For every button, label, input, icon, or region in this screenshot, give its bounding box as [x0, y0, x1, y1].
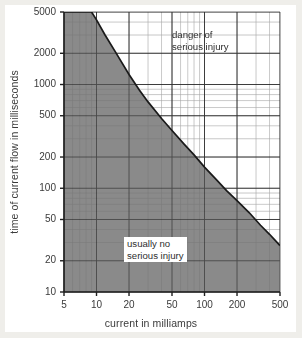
y-tick-label: 500 [39, 109, 56, 120]
danger-annotation: danger of serious injury [172, 29, 229, 52]
y-tick-label: 20 [45, 254, 56, 265]
y-tick-label: 50 [45, 213, 56, 224]
figure-container: 102050100200500100020005000 510205010020… [0, 0, 302, 338]
y-tick-label: 200 [39, 151, 56, 162]
usually-no-injury-annotation: usually no serious injury [124, 237, 187, 262]
x-tick-label: 200 [217, 299, 257, 310]
y-tick-label: 100 [39, 182, 56, 193]
y-tick-label: 2000 [34, 47, 56, 58]
y-axis-title: time of current flow in milliseconds [8, 70, 20, 234]
y-tick-label: 10 [45, 286, 56, 297]
x-axis-title: current in milliamps [0, 317, 302, 329]
x-tick-label: 20 [109, 299, 149, 310]
y-tick-label: 1000 [34, 78, 56, 89]
x-tick-label: 500 [260, 299, 300, 310]
y-tick-label: 5000 [34, 6, 56, 17]
